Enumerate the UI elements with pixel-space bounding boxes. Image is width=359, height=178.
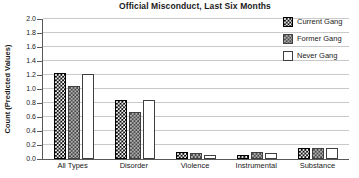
chart-title: Official Misconduct, Last Six Months xyxy=(42,1,348,11)
bar-former-gang-instrumental xyxy=(251,152,263,159)
legend-swatch-never-gang xyxy=(283,51,293,61)
legend-item-former-gang: Former Gang xyxy=(283,30,342,47)
x-category-label-all-types: All Types xyxy=(42,161,103,170)
y-tick-label-1.4: 1.4 xyxy=(0,57,36,65)
bar-never-gang-substance xyxy=(326,148,338,159)
x-axis-category-labels: All TypesDisorderViolenceInstrumentalSub… xyxy=(42,161,348,170)
y-tick-label-1.8: 1.8 xyxy=(0,29,36,37)
bar-current-gang-substance xyxy=(298,148,310,159)
y-tick-label-0.2: 0.2 xyxy=(0,141,36,149)
y-tick-label-1.6: 1.6 xyxy=(0,43,36,51)
bar-former-gang-violence xyxy=(190,153,202,159)
bar-group-violence xyxy=(165,19,226,159)
bar-group-instrumental xyxy=(227,19,288,159)
bar-current-gang-violence xyxy=(176,152,188,159)
x-category-label-disorder: Disorder xyxy=(103,161,164,170)
bar-never-gang-instrumental xyxy=(265,153,277,159)
y-tick-label-1.0: 1.0 xyxy=(0,85,36,93)
legend: Current GangFormer GangNever Gang xyxy=(283,13,342,64)
legend-label-former-gang: Former Gang xyxy=(297,34,342,43)
x-category-label-violence: Violence xyxy=(164,161,225,170)
y-axis-tick-labels: 0.00.20.40.60.81.01.21.41.61.82.0 xyxy=(0,19,36,159)
y-tick-label-2.0: 2.0 xyxy=(0,15,36,23)
legend-item-current-gang: Current Gang xyxy=(283,13,342,30)
bar-group-disorder xyxy=(104,19,165,159)
bar-current-gang-instrumental xyxy=(237,155,249,159)
misconduct-bar-chart: Official Misconduct, Last Six Months Cou… xyxy=(0,0,359,178)
y-tick-label-0.6: 0.6 xyxy=(0,113,36,121)
legend-swatch-current-gang xyxy=(283,17,293,27)
y-tick-label-0.8: 0.8 xyxy=(0,99,36,107)
bar-never-gang-violence xyxy=(204,155,216,159)
bar-former-gang-disorder xyxy=(129,112,141,159)
x-category-label-instrumental: Instrumental xyxy=(226,161,287,170)
bar-current-gang-disorder xyxy=(115,100,127,159)
x-category-label-substance: Substance xyxy=(287,161,348,170)
legend-label-never-gang: Never Gang xyxy=(297,51,337,60)
legend-swatch-former-gang xyxy=(283,34,293,44)
y-tick-label-0.4: 0.4 xyxy=(0,127,36,135)
bar-never-gang-all-types xyxy=(82,74,94,159)
bar-former-gang-all-types xyxy=(68,86,80,159)
legend-label-current-gang: Current Gang xyxy=(297,17,342,26)
bar-current-gang-all-types xyxy=(54,73,66,159)
y-tick-label-1.2: 1.2 xyxy=(0,71,36,79)
bar-never-gang-disorder xyxy=(143,100,155,160)
legend-item-never-gang: Never Gang xyxy=(283,47,342,64)
bar-group-all-types xyxy=(43,19,104,159)
bar-former-gang-substance xyxy=(312,148,324,159)
y-tick-label-0.0: 0.0 xyxy=(0,155,36,163)
